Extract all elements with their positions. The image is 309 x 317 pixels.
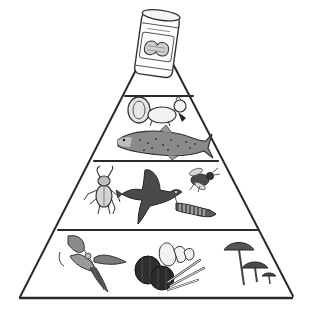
tier-1 [118,96,213,160]
vegetables-fruits-icon [135,243,204,290]
peanut-butter-jar-icon [134,8,181,79]
tier-3 [59,236,276,292]
caterpillar-icon [175,197,216,217]
bee-icon [188,167,220,192]
bird-icon [116,170,182,224]
trout-icon [118,125,213,160]
squirrel-icon [128,96,186,126]
beetle-icon [84,166,120,214]
tier-2 [84,166,220,224]
leafy-plant-icon [59,236,126,292]
food-pyramid-diagram [0,0,309,317]
